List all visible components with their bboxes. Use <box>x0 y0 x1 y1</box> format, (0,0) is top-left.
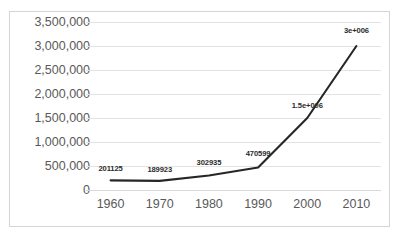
data-point-label: 470599 <box>246 149 271 158</box>
y-axis-tick-label: 0 <box>18 184 90 197</box>
y-axis-tick-label: 2,500,000 <box>18 64 90 77</box>
y-axis-tick-label: 3,500,000 <box>18 16 90 29</box>
x-axis-tick-label: 1970 <box>132 198 188 211</box>
y-axis-tick-label: 2,000,000 <box>18 88 90 101</box>
data-point-label: 201125 <box>98 164 122 173</box>
y-axis-tick-label: 1,000,000 <box>18 136 90 149</box>
data-point-label: 189923 <box>147 165 172 174</box>
x-axis-tick-label: 1960 <box>83 198 139 211</box>
y-axis-tick-label: 1,500,000 <box>18 112 90 125</box>
chart-plot-wrapper: 3,500,0003,000,0002,500,0002,000,0001,50… <box>10 12 391 228</box>
x-axis-tick-label: 1990 <box>230 198 286 211</box>
line-series-path <box>111 46 357 181</box>
x-axis-line <box>86 190 381 191</box>
chart-plot-area <box>86 22 381 190</box>
y-axis-tick-label: 3,000,000 <box>18 40 90 53</box>
chart-frame: 3,500,0003,000,0002,500,0002,000,0001,50… <box>9 11 390 227</box>
x-axis-tick-label: 2000 <box>279 198 335 211</box>
data-point-label: 3e+006 <box>344 26 369 35</box>
data-point-label: 302935 <box>197 158 222 167</box>
x-axis-tick-label: 1980 <box>181 198 237 211</box>
y-axis-tick-label: 500,000 <box>18 160 90 173</box>
line-series-svg <box>86 22 381 190</box>
data-point-label: 1.5e+006 <box>292 101 323 110</box>
x-axis-tick-label: 2010 <box>328 198 384 211</box>
